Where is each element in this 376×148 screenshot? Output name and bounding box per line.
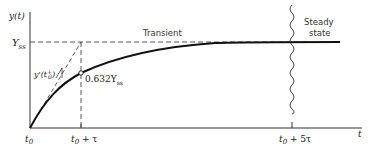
steady-state-label-line1: Steady [304, 17, 334, 27]
x-tick-t0-tau: t0 + τ [71, 134, 97, 146]
slope-triangle [56, 68, 62, 78]
response-curve [30, 42, 340, 128]
steady-state-label-line2: state [309, 28, 331, 38]
steady-level-label: Yss [12, 37, 26, 51]
time-constant-point [79, 71, 83, 75]
y-axis-label: y(t) [8, 11, 25, 21]
x-tick-t0-5tau: t0 + 5τ [279, 134, 311, 146]
x-tick-t0: t0 [25, 134, 34, 146]
step-response-diagram: y(t) Yss y'(t+0) 0.632Yss Transient Stea… [0, 0, 376, 148]
x-axis-label: t [358, 129, 362, 139]
tangent-slope-label: y'(t+0) [33, 68, 55, 80]
steady-state-boundary-wavy-line [290, 5, 294, 114]
time-constant-point-label: 0.632Yss [85, 74, 123, 86]
transient-region-label: Transient [142, 28, 182, 38]
